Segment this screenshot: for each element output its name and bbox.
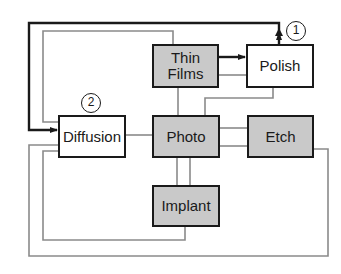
step-badge-1: 1 bbox=[286, 21, 306, 41]
node-etch-label: Etch bbox=[265, 129, 295, 145]
node-diffusion-label: Diffusion bbox=[63, 129, 121, 145]
node-thin-films[interactable]: Thin Films bbox=[152, 44, 219, 88]
node-implant[interactable]: Implant bbox=[152, 185, 220, 227]
node-polish[interactable]: Polish bbox=[246, 44, 314, 88]
polish-photo-line bbox=[205, 88, 273, 115]
node-photo[interactable]: Photo bbox=[152, 115, 220, 158]
node-implant-label: Implant bbox=[161, 198, 210, 214]
polish-up-arrowhead bbox=[275, 28, 283, 36]
node-diffusion[interactable]: Diffusion bbox=[58, 115, 126, 158]
node-polish-label: Polish bbox=[260, 58, 301, 74]
node-etch[interactable]: Etch bbox=[247, 115, 314, 158]
step-badge-2: 2 bbox=[81, 93, 101, 113]
node-thin-films-label: Thin Films bbox=[168, 50, 204, 82]
process-flow-diagram: Thin Films Polish Diffusion Photo Etch I… bbox=[0, 0, 341, 274]
node-photo-label: Photo bbox=[166, 129, 205, 145]
